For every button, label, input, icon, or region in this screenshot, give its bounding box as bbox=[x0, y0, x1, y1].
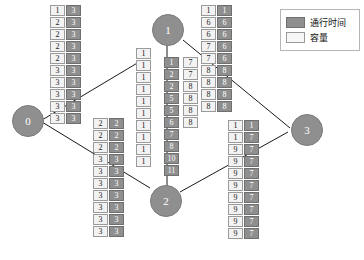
stack-center-capacity-capacity-column: 1111111111 bbox=[136, 48, 151, 167]
cell: 5 bbox=[164, 105, 179, 116]
cell: 2 bbox=[109, 130, 124, 141]
stack-top-left-time-column: 3333333333 bbox=[66, 5, 81, 124]
cell: 3 bbox=[93, 178, 108, 189]
cell: 9 bbox=[228, 228, 243, 239]
cell: 3 bbox=[93, 154, 108, 165]
cell: 8 bbox=[183, 105, 198, 116]
legend: 通行时间 容量 bbox=[280, 9, 360, 51]
node-3[interactable]: 3 bbox=[291, 114, 323, 146]
cell: 3 bbox=[109, 166, 124, 177]
stack-lower-left: 22233333332223333333 bbox=[93, 118, 124, 237]
stack-top-left-capacity-column: 1222233333 bbox=[50, 5, 65, 124]
cell: 1 bbox=[217, 5, 232, 16]
cell: 8 bbox=[183, 81, 198, 92]
cell: 8 bbox=[217, 101, 232, 112]
cell: 6 bbox=[201, 17, 216, 28]
cell: 8 bbox=[217, 77, 232, 88]
cell: 9 bbox=[228, 144, 243, 155]
cell: 9 bbox=[228, 168, 243, 179]
cell: 1 bbox=[136, 84, 151, 95]
cell: 7 bbox=[201, 41, 216, 52]
cell: 6 bbox=[201, 29, 216, 40]
cell: 9 bbox=[228, 216, 243, 227]
cell: 7 bbox=[244, 144, 259, 155]
cell: 7 bbox=[244, 204, 259, 215]
cell: 2 bbox=[109, 118, 124, 129]
legend-swatch-capacity bbox=[286, 32, 305, 43]
cell: 7 bbox=[244, 168, 259, 179]
cell: 1 bbox=[228, 120, 243, 131]
edge-node-1-to-node-3 bbox=[183, 40, 290, 128]
node-2[interactable]: 2 bbox=[150, 185, 182, 217]
cell: 3 bbox=[66, 77, 81, 88]
cell: 3 bbox=[109, 226, 124, 237]
cell: 3 bbox=[50, 101, 65, 112]
cell: 5 bbox=[164, 93, 179, 104]
cell: 1 bbox=[136, 132, 151, 143]
cell: 3 bbox=[66, 17, 81, 28]
cell: 7 bbox=[244, 132, 259, 143]
cell: 2 bbox=[50, 41, 65, 52]
cell: 7 bbox=[244, 216, 259, 227]
cell: 3 bbox=[50, 89, 65, 100]
stack-bottom-right-capacity-column: 1199999999 bbox=[228, 120, 243, 239]
cell: 1 bbox=[136, 108, 151, 119]
node-1[interactable]: 1 bbox=[152, 14, 184, 46]
cell: 1 bbox=[136, 156, 151, 167]
cell: 3 bbox=[109, 154, 124, 165]
legend-item-time: 通行时间 bbox=[286, 16, 354, 29]
node-2-label: 2 bbox=[163, 196, 169, 207]
stack-top-right: 166778888166668888 bbox=[201, 5, 232, 112]
cell: 6 bbox=[164, 117, 179, 128]
cell: 2 bbox=[93, 142, 108, 153]
cell: 3 bbox=[93, 214, 108, 225]
cell: 3 bbox=[66, 41, 81, 52]
cell: 7 bbox=[244, 192, 259, 203]
stack-lower-left-time-column: 2223333333 bbox=[109, 118, 124, 237]
cell: 3 bbox=[109, 178, 124, 189]
cell: 7 bbox=[164, 129, 179, 140]
cell: 8 bbox=[201, 65, 216, 76]
cell: 3 bbox=[66, 89, 81, 100]
cell: 3 bbox=[109, 214, 124, 225]
cell: 1 bbox=[201, 5, 216, 16]
cell: 1 bbox=[228, 132, 243, 143]
cell: 3 bbox=[66, 113, 81, 124]
cell: 7 bbox=[244, 156, 259, 167]
cell: 11 bbox=[164, 165, 179, 176]
node-1-label: 1 bbox=[165, 25, 171, 36]
cell: 10 bbox=[164, 153, 179, 164]
cell: 2 bbox=[164, 69, 179, 80]
cell: 3 bbox=[93, 166, 108, 177]
cell: 3 bbox=[50, 65, 65, 76]
cell: 3 bbox=[93, 202, 108, 213]
stack-top-right-capacity-column: 166778888 bbox=[201, 5, 216, 112]
cell: 3 bbox=[66, 101, 81, 112]
cell: 8 bbox=[217, 65, 232, 76]
legend-item-capacity: 容量 bbox=[286, 31, 354, 44]
node-0-label: 0 bbox=[25, 116, 31, 127]
cell: 3 bbox=[66, 5, 81, 16]
node-0[interactable]: 0 bbox=[12, 105, 44, 137]
stack-lower-left-capacity-column: 2223333333 bbox=[93, 118, 108, 237]
cell: 2 bbox=[50, 17, 65, 28]
cell: 2 bbox=[50, 29, 65, 40]
cell: 1 bbox=[136, 144, 151, 155]
cell: 8 bbox=[164, 141, 179, 152]
cell: 1 bbox=[50, 5, 65, 16]
node-3-label: 3 bbox=[304, 125, 310, 136]
cell: 2 bbox=[164, 81, 179, 92]
cell: 3 bbox=[66, 29, 81, 40]
cell: 6 bbox=[217, 53, 232, 64]
cell: 8 bbox=[201, 101, 216, 112]
cell: 8 bbox=[183, 93, 198, 104]
stack-center-right-capacity: 778888 bbox=[183, 57, 198, 128]
cell: 3 bbox=[93, 226, 108, 237]
cell: 8 bbox=[201, 77, 216, 88]
cell: 1 bbox=[136, 48, 151, 59]
cell: 8 bbox=[217, 89, 232, 100]
cell: 1 bbox=[136, 60, 151, 71]
cell: 1 bbox=[136, 120, 151, 131]
stack-top-right-time-column: 166668888 bbox=[217, 5, 232, 112]
cell: 9 bbox=[228, 204, 243, 215]
